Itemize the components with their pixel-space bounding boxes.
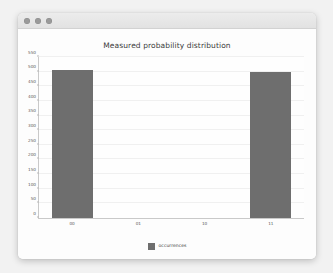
app-window: Measured probability distribution 050100… bbox=[18, 13, 316, 259]
y-tick-label: 100 bbox=[28, 182, 39, 186]
x-axis-ticks: 00011011 bbox=[39, 218, 304, 226]
bar-slot bbox=[238, 57, 304, 218]
bars-layer bbox=[39, 57, 304, 218]
y-tick-label: 50 bbox=[31, 197, 39, 201]
y-tick-label: 450 bbox=[28, 80, 39, 84]
y-tick-label: 250 bbox=[28, 139, 39, 143]
chart-figure: Measured probability distribution 050100… bbox=[18, 29, 316, 259]
y-tick-label: 150 bbox=[28, 168, 39, 172]
chart-legend: occurrences bbox=[18, 243, 316, 250]
x-tick-label-11: 11 bbox=[238, 218, 304, 226]
chart-title: Measured probability distribution bbox=[18, 41, 316, 50]
minimize-icon[interactable] bbox=[35, 18, 41, 24]
close-icon[interactable] bbox=[24, 18, 30, 24]
legend-swatch-occurrences bbox=[148, 243, 155, 250]
x-tick-label-01: 01 bbox=[105, 218, 171, 226]
bar-11[interactable] bbox=[250, 72, 291, 218]
y-tick-label: 400 bbox=[28, 95, 39, 99]
window-title-bar[interactable] bbox=[18, 13, 316, 29]
y-tick-label: 300 bbox=[28, 124, 39, 128]
y-tick-label: 500 bbox=[28, 65, 39, 69]
y-tick-label: 200 bbox=[28, 153, 39, 157]
plot-frame: 050100150200250300350400450500550 000110… bbox=[38, 57, 304, 219]
bar-slot bbox=[172, 57, 238, 218]
y-tick-label: 550 bbox=[28, 51, 39, 55]
x-tick-label-00: 00 bbox=[39, 218, 105, 226]
legend-label-occurrences: occurrences bbox=[159, 244, 187, 249]
x-tick-label-10: 10 bbox=[172, 218, 238, 226]
bar-slot bbox=[39, 57, 105, 218]
plot-area: 050100150200250300350400450500550 000110… bbox=[38, 57, 304, 219]
bar-slot bbox=[105, 57, 171, 218]
y-tick-label: 350 bbox=[28, 109, 39, 113]
bar-00[interactable] bbox=[52, 70, 93, 218]
zoom-icon[interactable] bbox=[46, 18, 52, 24]
